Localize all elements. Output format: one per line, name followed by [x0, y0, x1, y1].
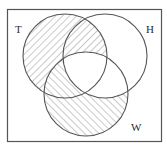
- label-w: W: [131, 121, 142, 133]
- venn-diagram: T H W: [0, 0, 167, 154]
- label-h: H: [146, 23, 154, 35]
- label-t: T: [15, 23, 22, 35]
